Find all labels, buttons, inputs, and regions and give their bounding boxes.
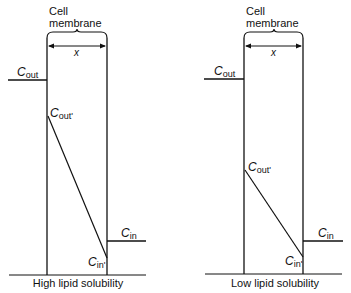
panel-low-lipid-solubility: Cell membrane x Cout Cout' Cin Cin' Low …	[204, 5, 343, 289]
membrane-header-line2: membrane	[49, 17, 102, 29]
arrowhead-right-icon	[100, 44, 106, 49]
c-in-label: Cin	[121, 226, 137, 241]
arrowhead-left-icon	[245, 44, 251, 49]
c-out-prime-label: Cout'	[248, 160, 271, 175]
thickness-label: x	[270, 47, 277, 58]
concentration-gradient-line	[245, 170, 303, 257]
brace-icon	[47, 29, 107, 38]
diffusion-diagram: Cell membrane x Cout Cout' Cin Cin' High…	[0, 0, 351, 293]
caption-low-lipid-solubility: Low lipid solubility	[231, 277, 320, 289]
thickness-label: x	[73, 47, 80, 58]
c-out-prime-label: Cout'	[50, 106, 73, 121]
brace-icon	[244, 29, 303, 38]
caption-high-lipid-solubility: High lipid solubility	[33, 277, 124, 289]
c-in-label: Cin	[318, 226, 334, 241]
panel-high-lipid-solubility: Cell membrane x Cout Cout' Cin Cin' High…	[8, 5, 146, 289]
concentration-gradient-line	[48, 116, 107, 258]
arrowhead-right-icon	[296, 44, 302, 49]
membrane-header-line1: Cell	[49, 5, 68, 17]
arrowhead-left-icon	[48, 44, 54, 49]
membrane-header-line2: membrane	[246, 17, 299, 29]
c-in-prime-label: Cin'	[285, 254, 303, 269]
c-out-label: Cout	[214, 64, 236, 79]
c-out-label: Cout	[17, 65, 39, 80]
membrane-header-line1: Cell	[246, 5, 265, 17]
c-in-prime-label: Cin'	[88, 255, 106, 270]
